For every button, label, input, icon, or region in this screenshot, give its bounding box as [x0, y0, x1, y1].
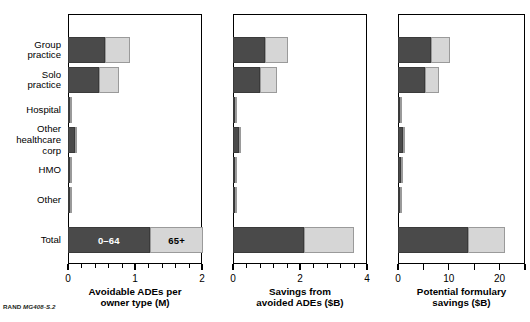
x-axis-title: Potential formularysavings ($B): [380, 286, 530, 309]
axis-tick-minor: [260, 264, 261, 268]
bar-segment-65-plus: [239, 127, 241, 153]
chart-panel-savings-avoided-ades: 024: [233, 14, 367, 264]
x-axis-title-line1: Savings from: [215, 286, 385, 297]
bar-segment-65-plus: [70, 157, 72, 183]
category-label-line: healthcare: [0, 135, 61, 146]
axis-tick-major: [299, 264, 300, 270]
bars-layer: [398, 14, 525, 264]
bar-segment-0-64: [233, 67, 260, 93]
axis-tick-minor: [313, 264, 314, 268]
bar-segment-65-plus: [260, 67, 277, 93]
x-axis-title-line1: Potential formulary: [380, 286, 530, 297]
bar-segment-0-64: [68, 127, 75, 153]
axis-tick-minor: [340, 264, 341, 268]
axis-tick-label: 0: [395, 273, 401, 284]
axis-tick-minor: [95, 264, 96, 268]
chart-panel-potential-formulary-savings: 01020: [398, 14, 525, 264]
bar-segment-65-plus: [235, 157, 237, 183]
bar-label-65-plus: 65+: [151, 235, 203, 246]
axis-tick-label: 20: [494, 273, 505, 284]
category-label-line: Total: [0, 235, 61, 246]
bar-segment-65-plus: [235, 187, 237, 213]
source-note: RAND MG408-S.2: [3, 303, 56, 310]
bar-segment-65-plus: 65+: [150, 227, 204, 253]
axis-tick-label: 0: [230, 273, 236, 284]
bar-segment-65-plus: [431, 37, 451, 63]
axis-tick-minor: [327, 264, 328, 268]
x-axis-title-line2: owner type (M): [50, 297, 220, 308]
x-axis-title: Avoidable ADEs perowner type (M): [50, 286, 220, 309]
axis-tick-major: [474, 264, 475, 270]
bar-segment-65-plus: [70, 97, 72, 123]
axis-tick-major: [232, 264, 233, 270]
category-axis-labels: GrouppracticeSolopracticeHospitalOtherhe…: [0, 14, 66, 264]
axis-tick-label: 0: [65, 273, 71, 284]
bars-layer: [233, 14, 367, 264]
figure-container: GrouppracticeSolopracticeHospitalOtherhe…: [0, 0, 530, 322]
axis-tick-label: 10: [443, 273, 454, 284]
axis-tick-label: 4: [364, 273, 370, 284]
bar-segment-0-64: [68, 37, 105, 63]
bar-segment-65-plus: [75, 127, 77, 153]
bar-segment-65-plus: [235, 97, 237, 123]
axis-tick-minor: [162, 264, 163, 268]
bars-layer: 0–6465+: [68, 14, 202, 264]
axis-tick-label: 2: [199, 273, 205, 284]
axis-tick-major: [201, 264, 202, 270]
x-axis-title: Savings fromavoided ADEs ($B): [215, 286, 385, 309]
category-label-3: Otherhealthcarecorp: [0, 124, 61, 156]
axis-tick-minor: [108, 264, 109, 268]
category-label-6: Total: [0, 235, 61, 246]
category-label-line: Other: [0, 195, 61, 206]
bar-segment-0-64: [233, 37, 265, 63]
category-label-5: Other: [0, 195, 61, 206]
axis-tick-major: [524, 264, 525, 270]
bar-segment-0-64: [68, 67, 99, 93]
category-label-4: HMO: [0, 165, 61, 176]
bar-segment-0-64: [398, 67, 425, 93]
bar-segment-65-plus: [403, 127, 405, 153]
category-label-0: Grouppractice: [0, 40, 61, 61]
bar-segment-65-plus: [99, 67, 119, 93]
category-label-line: practice: [0, 50, 61, 61]
axis-tick-minor: [122, 264, 123, 268]
category-label-1: Solopractice: [0, 70, 61, 91]
bar-segment-0-64: [398, 227, 468, 253]
x-axis-title-line2: avoided ADEs ($B): [215, 297, 385, 308]
axis-tick-minor: [354, 264, 355, 268]
chart-panel-avoidable-ades: 0–6465+ 012: [68, 14, 202, 264]
category-label-line: HMO: [0, 165, 61, 176]
bar-segment-65-plus: [265, 37, 288, 63]
axis-tick-minor: [273, 264, 274, 268]
category-label-line: Hospital: [0, 105, 61, 116]
bar-segment-0-64: [233, 227, 304, 253]
bar-segment-0-64: [398, 37, 431, 63]
bar-segment-0-64: 0–64: [68, 227, 150, 253]
axis-tick-minor: [287, 264, 288, 268]
bar-segment-65-plus: [304, 227, 354, 253]
bar-segment-65-plus: [400, 187, 402, 213]
axis-tick-minor: [189, 264, 190, 268]
source-note-prefix: RAND: [3, 303, 21, 310]
bar-segment-65-plus: [400, 97, 402, 123]
axis-tick-major: [134, 264, 135, 270]
bar-segment-65-plus: [105, 37, 130, 63]
axis-tick-major: [366, 264, 367, 270]
axis-tick-major: [423, 264, 424, 270]
axis-tick-minor: [246, 264, 247, 268]
axis-tick-minor: [148, 264, 149, 268]
bar-label-0-64: 0–64: [69, 235, 149, 246]
axis-tick-major: [397, 264, 398, 270]
bar-segment-65-plus: [401, 157, 403, 183]
axis-tick-major: [67, 264, 68, 270]
category-label-2: Hospital: [0, 105, 61, 116]
axis-tick-minor: [175, 264, 176, 268]
axis-tick-major: [499, 264, 500, 270]
x-axis-title-line1: Avoidable ADEs per: [50, 286, 220, 297]
bar-segment-65-plus: [425, 67, 439, 93]
category-label-line: practice: [0, 80, 61, 91]
axis-tick-minor: [81, 264, 82, 268]
bar-segment-65-plus: [468, 227, 505, 253]
category-label-line: corp: [0, 146, 61, 157]
x-axis-title-line2: savings ($B): [380, 297, 530, 308]
